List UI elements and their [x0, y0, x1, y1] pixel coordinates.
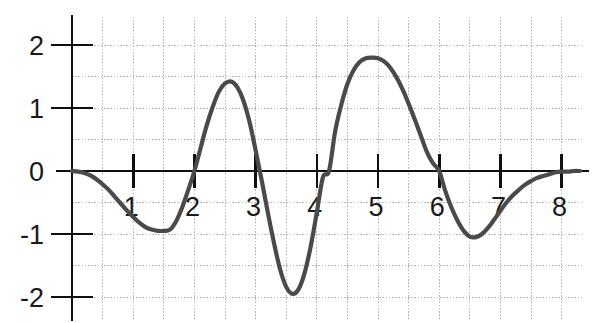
x-tick-label: 3: [246, 192, 261, 222]
y-tick-label: -1: [20, 220, 44, 250]
y-tick-label: -2: [20, 283, 44, 313]
chart-figure: 12345678 -2-1012: [0, 0, 603, 323]
y-axis-tick-labels: -2-1012: [20, 31, 44, 313]
x-tick-label: 5: [368, 192, 383, 222]
y-tick-label: 1: [29, 94, 44, 124]
axis-lines: [56, 15, 589, 321]
data-series-curve: [72, 58, 580, 294]
x-tick-label: 8: [552, 192, 567, 222]
grid-lines: [72, 17, 583, 319]
y-tick-label: 0: [29, 157, 44, 187]
chart-plot-area: 12345678 -2-1012: [0, 0, 603, 323]
y-tick-label: 2: [29, 31, 44, 61]
x-tick-label: 6: [430, 192, 445, 222]
